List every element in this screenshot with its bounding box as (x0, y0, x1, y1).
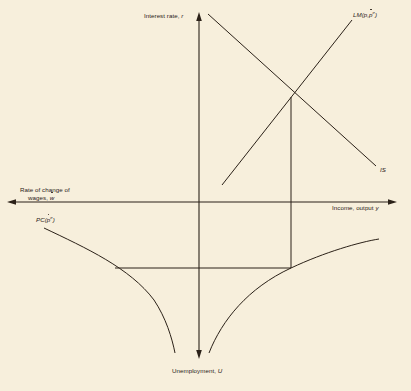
okun-curve (209, 239, 379, 353)
income-output-text: Income, output (332, 204, 375, 211)
interest-rate-symbol: r (181, 12, 183, 19)
interest-rate-arrowhead (196, 12, 202, 21)
pc-label-suffix: ) (53, 216, 55, 223)
is-lm-quadrant (208, 14, 376, 185)
axis-label-rate-of-change-of-wages: Rate of change of wages, w (20, 186, 70, 202)
axis-label-income-output: Income, output y (332, 204, 379, 212)
unemployment-arrowhead (196, 350, 202, 359)
wages-label-line1: Rate of change of (20, 186, 70, 193)
lm-label-symbol: p (369, 11, 373, 19)
curve-label-is: IS (380, 166, 386, 174)
wages-label-line2: wages, (28, 194, 50, 201)
wages-symbol: w (50, 194, 55, 202)
interest-rate-text: Interest rate, (144, 12, 181, 19)
axis-label-unemployment: Unemployment, U (172, 367, 222, 375)
pc-label-symbol: p (47, 216, 51, 224)
lm-label-prefix: LM(p, (353, 11, 369, 18)
is-label-text: IS (380, 166, 386, 173)
wages-arrowhead (7, 199, 16, 205)
is-curve (208, 14, 376, 166)
phillips-curve (44, 228, 175, 353)
income-output-arrowhead (388, 199, 397, 205)
unemployment-text: Unemployment, (172, 367, 218, 374)
income-output-symbol: y (375, 204, 378, 211)
unemployment-symbol: U (218, 367, 223, 374)
projection-lines (115, 97, 291, 268)
curve-label-pc: PC(pe) (36, 216, 55, 224)
macroeconomic-four-quadrant-diagram: Interest rate, r LM(p,pe) IS Income, out… (0, 0, 411, 391)
lm-label-suffix: ) (375, 11, 377, 18)
pc-label-prefix: PC( (36, 216, 47, 223)
curve-label-lm: LM(p,pe) (353, 11, 377, 19)
axis-label-interest-rate: Interest rate, r (144, 12, 183, 20)
